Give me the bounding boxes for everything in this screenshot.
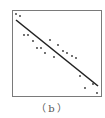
data-point [36,47,38,49]
data-point [75,57,77,59]
data-point [84,87,86,89]
data-point [32,40,34,42]
data-point [66,52,68,54]
data-point [19,15,21,17]
data-point [27,34,29,36]
data-point [62,50,64,52]
data-point [96,92,98,94]
regression-line [16,20,98,86]
data-point [57,44,59,46]
data-point [15,13,17,15]
scatter-plot [0,0,105,100]
data-point [79,75,81,77]
data-point [53,56,55,58]
data-point [40,47,42,49]
data-point [71,55,73,57]
data-point [23,34,25,36]
figure-caption: （b） [0,100,105,115]
data-point [49,39,51,41]
data-point [44,52,46,54]
data-point [92,83,94,85]
